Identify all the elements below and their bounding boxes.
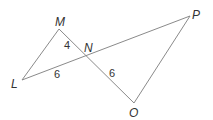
measure-MN: 4 [64,39,70,51]
segment-LP [22,16,190,80]
segment-MO [59,29,134,103]
label-M: M [55,15,65,29]
segment-PO [134,16,190,103]
label-N: N [84,41,93,55]
measure-NO: 6 [109,67,115,79]
label-P: P [192,8,200,22]
label-O: O [129,106,138,120]
label-L: L [11,77,18,91]
measure-LN: 6 [54,68,60,80]
geometry-diagram: M N L P O 4 6 6 [0,0,213,120]
